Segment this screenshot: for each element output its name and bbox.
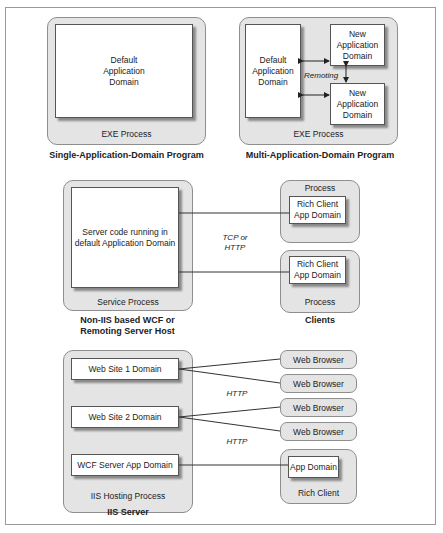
process-label: Rich Client xyxy=(280,488,357,498)
caption-iis-server: IIS Server xyxy=(63,507,193,518)
new-app-domain-2: New Application Domain xyxy=(330,83,385,125)
http-label-1: HTTP xyxy=(222,389,252,399)
default-app-domain-single: Default Application Domain xyxy=(55,24,193,118)
web-browser-1: Web Browser xyxy=(280,350,357,369)
caption-clients: Clients xyxy=(280,315,360,326)
process-label: IIS Hosting Process xyxy=(63,491,193,501)
rich-client-app-domain: App Domain xyxy=(288,456,339,478)
protocol-label: TCP or HTTP xyxy=(220,233,250,253)
process-label: EXE Process xyxy=(239,129,398,139)
caption-multi: Multi-Application-Domain Program xyxy=(225,150,415,161)
web-browser-4: Web Browser xyxy=(280,422,357,441)
wcf-server-app-domain: WCF Server App Domain xyxy=(71,454,179,476)
caption-server-host: Non-IIS based WCF or Remoting Server Hos… xyxy=(55,315,200,337)
rich-client-domain-1: Rich Client App Domain xyxy=(289,196,346,224)
remoting-label: Remoting xyxy=(304,71,334,81)
rich-client-domain-2: Rich Client App Domain xyxy=(289,256,346,284)
web-site-1-domain: Web Site 1 Domain xyxy=(71,358,179,380)
default-app-domain-multi: Default Application Domain xyxy=(245,24,301,118)
process-label: EXE Process xyxy=(47,129,206,139)
process-label: Process xyxy=(280,297,360,307)
process-label: Process xyxy=(280,183,360,193)
web-browser-2: Web Browser xyxy=(280,374,357,393)
new-app-domain-1: New Application Domain xyxy=(330,24,385,66)
http-label-2: HTTP xyxy=(222,437,252,447)
web-site-2-domain: Web Site 2 Domain xyxy=(71,406,179,428)
caption-single: Single-Application-Domain Program xyxy=(30,150,223,161)
server-app-domain: Server code running in default Applicati… xyxy=(71,187,179,288)
process-label: Service Process xyxy=(63,297,193,307)
web-browser-3: Web Browser xyxy=(280,398,357,417)
